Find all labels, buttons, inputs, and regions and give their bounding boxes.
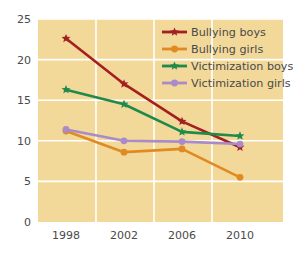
data-point-circle: [179, 146, 186, 153]
data-point-circle: [237, 141, 244, 148]
data-point-circle: [237, 174, 244, 181]
y-tick-label: 20: [17, 54, 31, 67]
data-point-circle: [121, 137, 128, 144]
legend-marker-circle: [171, 46, 178, 53]
y-tick-label: 10: [17, 135, 31, 148]
x-tick-label: 2002: [110, 229, 138, 242]
data-point-circle: [179, 138, 186, 145]
x-tick-label: 2006: [168, 229, 196, 242]
legend-label: Victimization girls: [191, 77, 291, 90]
legend-label: Bullying boys: [191, 26, 266, 39]
y-tick-label: 0: [24, 216, 31, 229]
legend-label: Bullying girls: [191, 43, 263, 56]
x-tick-label: 1998: [52, 229, 80, 242]
y-tick-label: 25: [17, 13, 31, 26]
y-tick-label: 15: [17, 94, 31, 107]
data-point-circle: [63, 126, 70, 133]
x-tick-label: 2010: [226, 229, 254, 242]
legend-marker-circle: [171, 80, 178, 87]
y-tick-label: 5: [24, 175, 31, 188]
legend-label: Victimization boys: [191, 60, 293, 73]
data-point-circle: [121, 149, 128, 156]
line-chart: 0510152025 1998200220062010 Bullying boy…: [0, 0, 298, 254]
chart-canvas: 0510152025 1998200220062010 Bullying boy…: [0, 0, 298, 254]
